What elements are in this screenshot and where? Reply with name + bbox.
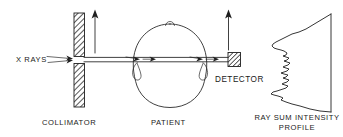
detector: [228, 53, 241, 67]
collimator: [74, 13, 85, 107]
label-detector: DETECTOR: [215, 75, 264, 84]
profile-trace: [271, 14, 331, 112]
label-patient: PATIENT: [151, 118, 186, 127]
label-collimator: COLLIMATOR: [42, 118, 96, 127]
ray-sum-intensity-profile: [271, 14, 331, 112]
diagram-canvas: X RAYS DETECTOR COLLIMATOR PATIENT RAY S…: [0, 0, 343, 137]
label-profile-line2: PROFILE: [279, 123, 315, 132]
detector-block: [228, 53, 241, 67]
collimator-lower-block: [74, 64, 85, 108]
collimator-motion-arrow: [92, 10, 99, 54]
label-xrays: X RAYS: [16, 55, 47, 64]
collimator-upper-block: [74, 13, 85, 57]
xray-ct-geometry-figure: X RAYS DETECTOR COLLIMATOR PATIENT RAY S…: [0, 0, 343, 137]
detector-motion-arrow: [225, 10, 232, 51]
label-profile-line1: RAY SUM INTENSITY: [254, 113, 339, 122]
patient-nose-bump: [166, 21, 175, 25]
incoming-xray-arrows: [47, 56, 73, 64]
patient-head-outline: [133, 21, 208, 107]
x-ray-beam: [84, 57, 229, 61]
